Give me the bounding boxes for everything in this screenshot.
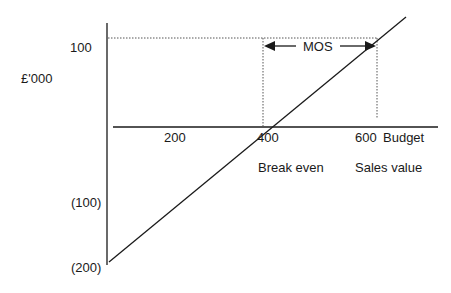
sales-value-label: Sales value [355,161,422,174]
y-tick-100: 100 [70,41,92,54]
chart-canvas [0,0,451,293]
y-tick-neg100: (100) [71,196,101,209]
mos-label: MOS [303,40,333,53]
x-tick-200: 200 [164,131,186,144]
mos-arrow-left-head [264,41,275,51]
y-axis-unit-label: £'000 [21,72,52,85]
x-tick-600: 600 [355,131,377,144]
break-even-label: Break even [258,161,324,174]
budget-label: Budget [383,131,424,144]
y-tick-neg200: (200) [71,261,101,274]
x-tick-400: 400 [257,131,279,144]
